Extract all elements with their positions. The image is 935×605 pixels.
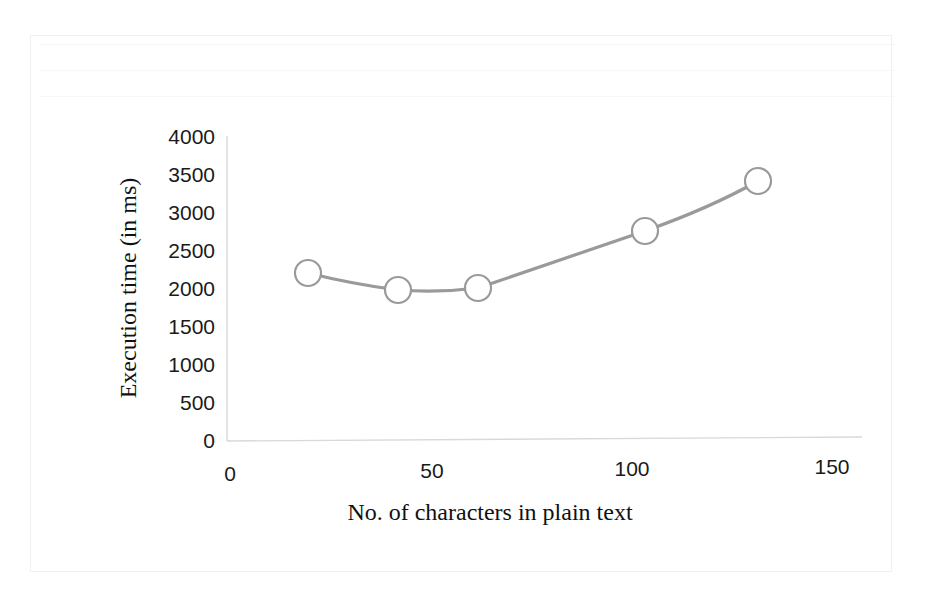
y-tick-label: 1500 bbox=[168, 315, 215, 338]
data-point-marker bbox=[745, 168, 771, 194]
x-tick-label: 100 bbox=[614, 457, 649, 480]
x-axis-tick-labels: 0 50 100 150 bbox=[224, 455, 849, 485]
data-point-marker bbox=[295, 260, 321, 286]
x-axis-title: No. of characters in plain text bbox=[347, 499, 633, 525]
x-axis-line bbox=[227, 437, 862, 441]
y-tick-label: 1000 bbox=[168, 353, 215, 376]
line-chart-figure: 4000 3500 3000 2500 2000 1500 1000 500 0… bbox=[0, 0, 935, 605]
y-tick-label: 3000 bbox=[168, 201, 215, 224]
y-tick-label: 0 bbox=[203, 429, 215, 452]
data-point-marker bbox=[465, 275, 491, 301]
y-axis-title: Execution time (in ms) bbox=[115, 178, 141, 399]
x-tick-label: 50 bbox=[420, 459, 443, 482]
y-tick-label: 2000 bbox=[168, 277, 215, 300]
data-point-marker bbox=[385, 277, 411, 303]
y-tick-label: 2500 bbox=[168, 239, 215, 262]
y-axis-tick-labels: 4000 3500 3000 2500 2000 1500 1000 500 0 bbox=[168, 125, 215, 452]
y-tick-label: 3500 bbox=[168, 163, 215, 186]
x-tick-label: 150 bbox=[814, 455, 849, 478]
data-series-markers bbox=[295, 168, 771, 303]
data-series-line bbox=[308, 181, 758, 291]
data-point-marker bbox=[632, 218, 658, 244]
y-tick-label: 500 bbox=[180, 391, 215, 414]
y-tick-label: 4000 bbox=[168, 125, 215, 148]
x-tick-label: 0 bbox=[224, 462, 236, 485]
